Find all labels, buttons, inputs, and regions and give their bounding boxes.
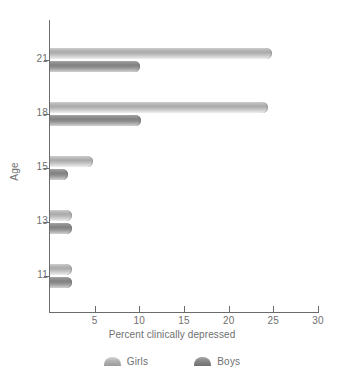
y-tick-label: 15 xyxy=(18,161,48,172)
x-tick-label: 20 xyxy=(217,315,241,326)
y-tick-label: 11 xyxy=(18,269,48,280)
y-axis-title: Age xyxy=(9,150,20,194)
bar-girls-age-11 xyxy=(50,264,72,275)
bar-boys-age-15 xyxy=(50,169,68,180)
bar-girls-age-13 xyxy=(50,210,72,221)
x-tick-label: 15 xyxy=(172,315,196,326)
chart-legend: Girls Boys xyxy=(0,356,344,367)
legend-item-girls: Girls xyxy=(104,356,149,367)
y-tick-label: 21 xyxy=(18,53,48,64)
x-tick-mark xyxy=(318,306,319,313)
x-tick-mark xyxy=(229,306,230,313)
x-tick-mark xyxy=(184,306,185,313)
x-tick-label: 25 xyxy=(261,315,285,326)
legend-swatch-girls-icon xyxy=(104,357,121,366)
bar-chart: 51015202530 1113151821 Percent clinicall… xyxy=(0,0,344,382)
x-tick-mark xyxy=(139,306,140,313)
x-tick-mark xyxy=(273,306,274,313)
legend-swatch-boys-icon xyxy=(194,357,211,366)
x-tick-label: 5 xyxy=(83,315,107,326)
bar-boys-age-11 xyxy=(50,277,72,288)
bar-boys-age-18 xyxy=(50,115,141,126)
legend-label-boys: Boys xyxy=(217,356,240,367)
x-axis-title: Percent clinically depressed xyxy=(0,329,344,340)
y-tick-label: 13 xyxy=(18,215,48,226)
bar-girls-age-15 xyxy=(50,156,93,167)
bar-boys-age-13 xyxy=(50,223,72,234)
bar-boys-age-21 xyxy=(50,61,140,72)
x-tick-label: 10 xyxy=(127,315,151,326)
legend-label-girls: Girls xyxy=(127,356,149,367)
x-tick-mark xyxy=(95,306,96,313)
x-tick-label: 30 xyxy=(306,315,330,326)
bar-girls-age-18 xyxy=(50,102,268,113)
bar-girls-age-21 xyxy=(50,48,272,59)
legend-item-boys: Boys xyxy=(194,356,240,367)
y-tick-label: 18 xyxy=(18,107,48,118)
